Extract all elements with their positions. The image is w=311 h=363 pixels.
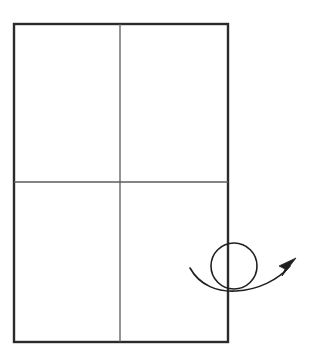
diagram-svg [0, 0, 311, 363]
folded-sheet-rectangle [14, 24, 228, 342]
diagram-canvas [0, 0, 311, 363]
